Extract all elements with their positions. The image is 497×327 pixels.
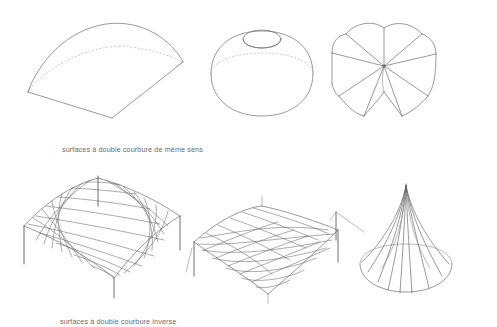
diagram-sheet: surfaces à double courbure de même sens	[0, 0, 497, 327]
shallow-square-dome-drawing	[20, 18, 198, 130]
figure-hyperbolic-paraboloid-membrane	[10, 172, 196, 300]
caption-row-same-sense: surfaces à double courbure de même sens	[62, 145, 203, 154]
caption-row-inverse-sense: surfaces à double courbure inverse	[60, 317, 176, 326]
saddle-membrane-drawing	[186, 190, 346, 305]
figure-shallow-square-dome	[20, 18, 198, 130]
figure-conical-tent	[330, 180, 470, 302]
figure-umbrella-vault	[322, 20, 442, 130]
guy-line-b	[330, 212, 336, 220]
conical-tent-drawing	[330, 180, 470, 302]
dome-with-oculus-drawing	[208, 22, 316, 126]
figure-saddle-membrane	[186, 190, 346, 305]
hypar-membrane-drawing	[10, 172, 196, 300]
guy-line-a	[336, 212, 364, 232]
figure-dome-with-oculus	[208, 22, 316, 126]
umbrella-vault-drawing	[322, 20, 442, 130]
